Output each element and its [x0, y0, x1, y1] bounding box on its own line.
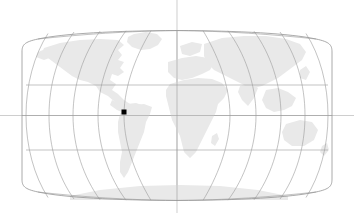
- location-marker[interactable]: [122, 110, 127, 115]
- world-map-figure: World map with single plotted location N…: [0, 0, 354, 213]
- map-canvas: [0, 0, 354, 213]
- marker-layer[interactable]: [122, 110, 127, 115]
